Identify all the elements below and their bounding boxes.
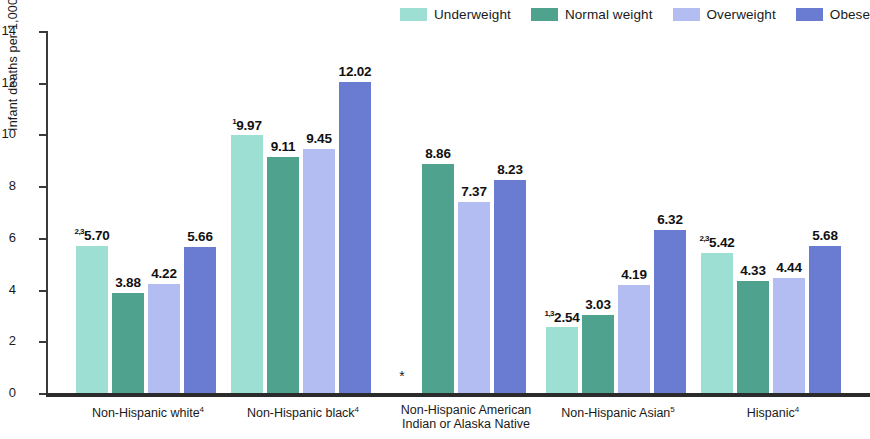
bar-slot: 3.88 — [112, 31, 144, 393]
bar-value-footnote: 2,3 — [699, 234, 709, 243]
bar-slot: 9.45 — [303, 31, 335, 393]
x-axis-group-label: Non-Hispanic white4 — [92, 403, 204, 420]
bar-underweight[interactable]: 2,35.42 — [701, 253, 733, 393]
legend-item-obese[interactable]: Obese — [796, 7, 870, 22]
bar-normal-weight[interactable]: 8.86 — [422, 164, 454, 393]
bar-slot: 4.22 — [148, 31, 180, 393]
y-tick-label: 2 — [0, 333, 16, 348]
plot-area: Infant deaths per 1,000 live births 0246… — [46, 31, 870, 395]
bar-obese[interactable]: 6.32 — [654, 230, 686, 393]
bar-slot: 1,32.54 — [546, 31, 578, 393]
x-axis-group-label-footnote: 4 — [355, 405, 359, 414]
bar-value-label: 3.03 — [585, 297, 610, 312]
bar-group-bars: 19.979.119.4512.02 — [231, 31, 371, 393]
bar-obese[interactable]: 12.02 — [339, 82, 371, 393]
y-tick-label: 6 — [0, 230, 16, 245]
x-axis-group-label-line: Indian or Alaska Native — [401, 417, 532, 431]
infant-mortality-bar-chart: UnderweightNormal weightOverweightObese … — [0, 0, 870, 439]
bar-normal-weight[interactable]: 3.03 — [582, 315, 614, 393]
bar-slot: 5.66 — [184, 31, 216, 393]
legend-label: Overweight — [707, 7, 776, 22]
x-axis-group-label: Non-Hispanic AmericanIndian or Alaska Na… — [401, 403, 532, 431]
legend-label: Underweight — [434, 7, 511, 22]
bar-obese[interactable]: 8.23 — [494, 180, 526, 393]
bar-group-bars: 2,35.424.334.445.68 — [701, 31, 841, 393]
x-axis-group-label-footnote: 5 — [670, 405, 674, 414]
bar-value-footnote: 1,3 — [544, 309, 554, 318]
bar-value-label: 12.02 — [339, 64, 372, 79]
bar-value-label: 8.23 — [497, 162, 522, 177]
legend-swatch-icon — [400, 8, 427, 21]
bar-value-footnote: 2,3 — [74, 227, 84, 236]
x-axis-group-label-footnote: 4 — [200, 405, 204, 414]
y-tick-mark — [39, 238, 46, 240]
bar-value-label: 4.33 — [740, 263, 765, 278]
x-axis-group-label-line: Non-Hispanic American — [401, 403, 532, 417]
bar-overweight[interactable]: 4.44 — [773, 278, 805, 393]
x-axis-group-label: Hispanic4 — [747, 403, 799, 420]
bar-value-label: 2,35.70 — [74, 227, 109, 243]
bar-value-label: 2,35.42 — [699, 234, 734, 250]
legend-item-underweight[interactable]: Underweight — [400, 7, 511, 22]
bar-slot: 3.03 — [582, 31, 614, 393]
y-tick-label: 4 — [0, 282, 16, 297]
y-tick-label: 8 — [0, 178, 16, 193]
bar-slot: 5.68 — [809, 31, 841, 393]
bar-slot: 12.02 — [339, 31, 371, 393]
bar-slot: 4.44 — [773, 31, 805, 393]
legend-item-normal-weight[interactable]: Normal weight — [531, 7, 653, 22]
x-axis-group-label-line: Non-Hispanic white4 — [92, 403, 204, 420]
bar-value-label: 4.44 — [776, 260, 801, 275]
bar-value-label: 4.22 — [151, 266, 176, 281]
x-axis-group-label-line: Hispanic4 — [747, 403, 799, 420]
y-axis-line — [46, 31, 48, 395]
legend-swatch-icon — [531, 8, 558, 21]
bar-group-bars: 2,35.703.884.225.66 — [76, 31, 216, 393]
bar-normal-weight[interactable]: 4.33 — [737, 281, 769, 393]
bar-value-label: 9.11 — [271, 139, 296, 154]
bar-underweight[interactable]: 19.97 — [231, 135, 263, 393]
x-axis-line — [46, 393, 870, 397]
bar-overweight[interactable]: 4.22 — [148, 284, 180, 393]
bar-value-label: 19.97 — [232, 117, 261, 133]
chart-legend: UnderweightNormal weightOverweightObese — [400, 3, 870, 25]
bar-slot: 9.11 — [267, 31, 299, 393]
bar-value-label: 8.86 — [425, 146, 450, 161]
bar-slot: 4.19 — [618, 31, 650, 393]
bar-value-label: 4.19 — [621, 267, 646, 282]
bar-group-bars: *8.867.378.23 — [386, 31, 526, 393]
bar-value-footnote: 1 — [232, 117, 236, 126]
bar-overweight[interactable]: 7.37 — [458, 202, 490, 393]
y-tick-label: 12 — [0, 75, 16, 90]
bar-value-label: 3.88 — [115, 275, 140, 290]
bar-slot: * — [386, 31, 418, 393]
x-axis-group-label: Non-Hispanic black4 — [247, 403, 359, 420]
bar-value-label: 5.68 — [812, 228, 837, 243]
bar-obese[interactable]: 5.68 — [809, 246, 841, 393]
bar-overweight[interactable]: 4.19 — [618, 285, 650, 393]
bar-slot: 7.37 — [458, 31, 490, 393]
legend-item-overweight[interactable]: Overweight — [673, 7, 776, 22]
bar-value-label: 7.37 — [461, 184, 486, 199]
bar-slot: 2,35.70 — [76, 31, 108, 393]
y-tick-label: 0 — [0, 385, 16, 400]
bar-value-label: 1,32.54 — [544, 309, 579, 325]
y-tick-mark — [39, 341, 46, 343]
bar-obese[interactable]: 5.66 — [184, 247, 216, 393]
bar-value-label: 5.66 — [187, 229, 212, 244]
bar-normal-weight[interactable]: 3.88 — [112, 293, 144, 393]
bar-slot: 19.97 — [231, 31, 263, 393]
bar-slot: 8.86 — [422, 31, 454, 393]
x-axis-group-label-line: Non-Hispanic black4 — [247, 403, 359, 420]
bar-underweight[interactable]: 2,35.70 — [76, 246, 108, 393]
bar-normal-weight[interactable]: 9.11 — [267, 157, 299, 393]
bar-slot: 2,35.42 — [701, 31, 733, 393]
bar-slot: 8.23 — [494, 31, 526, 393]
y-axis-title: Infant deaths per 1,000 live births — [6, 0, 20, 131]
y-tick-mark — [39, 31, 46, 33]
bar-group-bars: 1,32.543.034.196.32 — [546, 31, 686, 393]
suppressed-data-marker: * — [399, 373, 404, 379]
bar-underweight[interactable]: 1,32.54 — [546, 327, 578, 393]
bar-overweight[interactable]: 9.45 — [303, 149, 335, 393]
bar-value-label: 6.32 — [657, 212, 682, 227]
